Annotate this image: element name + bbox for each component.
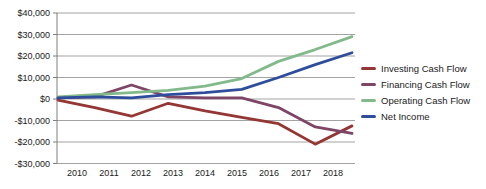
legend-label-operating-cash-flow: Operating Cash Flow — [381, 95, 470, 106]
legend-label-investing-cash-flow: Investing Cash Flow — [381, 63, 467, 74]
legend-item-financing-cash-flow: Financing Cash Flow — [361, 78, 470, 90]
legend: Investing Cash Flow Financing Cash Flow … — [361, 62, 470, 122]
x-axis-label: 2014 — [195, 168, 215, 178]
cash-flow-chart: $40,000$30,000$20,000$10,000$0-$10,000-$… — [0, 0, 486, 189]
legend-item-net-income: Net Income — [361, 110, 470, 122]
series-line-net-income — [58, 53, 352, 98]
y-axis-label: $40,000 — [17, 8, 50, 18]
legend-swatch-operating-cash-flow — [361, 99, 376, 102]
x-axis-label: 2017 — [291, 168, 311, 178]
legend-item-operating-cash-flow: Operating Cash Flow — [361, 94, 470, 106]
legend-swatch-net-income — [361, 115, 376, 118]
x-axis-label: 2016 — [259, 168, 279, 178]
y-axis-label: -$20,000 — [14, 137, 50, 147]
x-axis-label: 2011 — [99, 168, 118, 178]
legend-item-investing-cash-flow: Investing Cash Flow — [361, 62, 470, 74]
legend-label-net-income: Net Income — [381, 111, 430, 122]
x-axis-label: 2018 — [323, 168, 343, 178]
y-axis-label: -$10,000 — [14, 116, 50, 126]
y-axis-label: $20,000 — [17, 51, 50, 61]
legend-swatch-financing-cash-flow — [361, 83, 376, 86]
x-axis-label: 2012 — [131, 168, 151, 178]
y-axis-label: $30,000 — [17, 30, 50, 40]
y-axis-label: -$30,000 — [14, 159, 50, 169]
x-axis-label: 2010 — [67, 168, 87, 178]
x-axis-label: 2015 — [227, 168, 247, 178]
y-axis-label: $10,000 — [17, 73, 50, 83]
x-axis-label: 2013 — [163, 168, 183, 178]
legend-label-financing-cash-flow: Financing Cash Flow — [381, 79, 470, 90]
y-axis-label: $0 — [40, 94, 50, 104]
legend-swatch-investing-cash-flow — [361, 67, 376, 70]
